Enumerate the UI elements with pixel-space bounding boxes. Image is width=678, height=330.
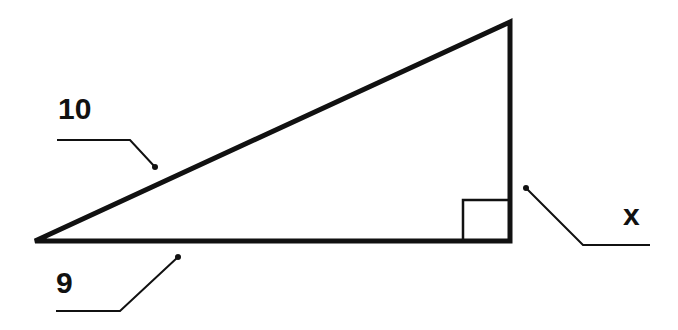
leader-dot-hypotenuse bbox=[152, 164, 158, 170]
triangle-diagram: 10 9 x bbox=[0, 0, 678, 330]
leader-line-base bbox=[56, 257, 178, 311]
triangle-figure bbox=[0, 0, 678, 330]
leader-dot-height bbox=[523, 185, 529, 191]
right-triangle bbox=[35, 22, 510, 241]
leader-dot-base bbox=[175, 254, 181, 260]
right-angle-marker bbox=[463, 200, 508, 241]
base-label: 9 bbox=[56, 266, 73, 300]
leader-line-hypotenuse bbox=[57, 140, 155, 167]
hypotenuse-label: 10 bbox=[58, 92, 91, 126]
height-label: x bbox=[623, 198, 640, 232]
